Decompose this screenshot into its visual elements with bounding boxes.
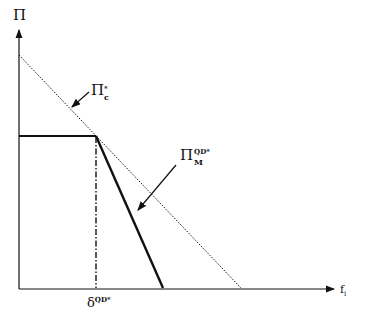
curve-pm-slope: [96, 136, 163, 288]
delta-label: δQD*: [87, 294, 111, 310]
pm-pointer-arrow: [138, 165, 176, 210]
pc-pointer-arrow: [72, 92, 89, 107]
curve-pc-line: [19, 55, 241, 288]
y-axis-label: П: [13, 8, 26, 23]
curve-pc-label: П*c: [91, 82, 110, 98]
x-axis-label: fi: [340, 284, 346, 295]
curve-pm-label: ПQD*M: [180, 147, 211, 163]
